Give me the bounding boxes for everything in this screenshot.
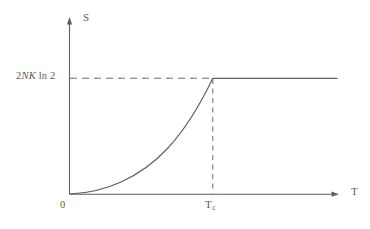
y-tick-label-saturation: 2NK ln 2 <box>16 71 56 82</box>
y-axis <box>67 17 72 194</box>
y-axis-arrow-icon <box>67 17 72 25</box>
y-tick-suffix: ln 2 <box>39 70 56 81</box>
plot-canvas <box>0 0 370 229</box>
x-tick-base: T <box>205 198 212 210</box>
x-axis <box>70 192 340 197</box>
origin-label: 0 <box>60 200 65 211</box>
y-tick-italic-k: K <box>29 70 36 81</box>
x-tick-label-critical-temperature: Tc <box>205 199 216 212</box>
x-axis-label: T <box>351 186 358 197</box>
entropy-curve <box>70 78 337 194</box>
entropy-temperature-figure: S T 2NK ln 2 0 Tc <box>0 0 370 229</box>
x-tick-subscript: c <box>212 203 216 212</box>
y-axis-label: S <box>83 12 89 23</box>
y-tick-italic-n: N <box>21 70 28 81</box>
x-axis-arrow-icon <box>332 192 340 197</box>
